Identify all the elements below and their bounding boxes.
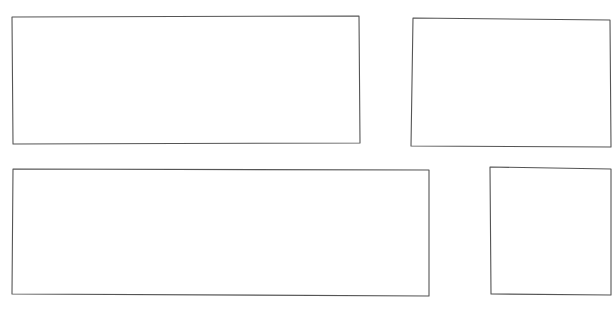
diagram-canvas (0, 0, 614, 310)
box-bottom-left (12, 169, 429, 296)
boxes-layer (0, 0, 614, 310)
box-top-right (411, 18, 611, 147)
box-bottom-right (490, 167, 611, 295)
box-top-left (12, 16, 360, 144)
